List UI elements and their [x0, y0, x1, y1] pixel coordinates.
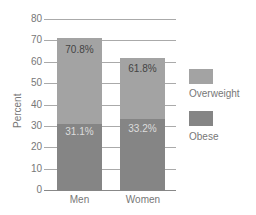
y-tick-60: 60	[26, 57, 42, 67]
y-tick-40: 40	[26, 100, 42, 110]
y-tick-10: 10	[26, 164, 42, 174]
category-men: Men	[52, 194, 107, 205]
bar-men-total-label: 70.8%	[57, 45, 102, 55]
y-tick-50: 50	[26, 78, 42, 88]
y-axis-label: Percent	[12, 94, 23, 128]
legend-label-obese: Obese	[189, 131, 218, 142]
y-tick-80: 80	[26, 14, 42, 24]
y-tick-20: 20	[26, 142, 42, 152]
legend-swatch-overweight	[189, 69, 213, 84]
legend-label-overweight: Overweight	[189, 88, 240, 99]
y-tick-70: 70	[26, 35, 42, 45]
bar-women-total-label: 61.8%	[120, 64, 165, 74]
bar-women-obese-label: 33.2%	[120, 124, 165, 134]
bar-men-obese-label: 31.1%	[57, 127, 102, 137]
y-tick-30: 30	[26, 121, 42, 131]
legend-swatch-obese	[189, 111, 213, 126]
category-women: Women	[113, 194, 173, 205]
y-tick-0: 0	[26, 185, 42, 195]
